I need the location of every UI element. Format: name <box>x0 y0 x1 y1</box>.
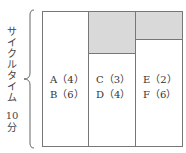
task-label: D（4） <box>96 87 130 102</box>
task-label: C（3） <box>96 72 130 87</box>
label-char: ル <box>6 59 18 70</box>
task-label: F（6） <box>143 87 176 102</box>
cycle-time-value: 10 <box>4 110 20 121</box>
label-char: ム <box>6 92 18 103</box>
label-char: タ <box>6 70 18 81</box>
idle-time-area <box>89 12 135 54</box>
label-char: イ <box>6 37 18 48</box>
station-2: C（3） D（4） <box>88 11 136 147</box>
label-char: イ <box>6 81 18 92</box>
task-label: E（2） <box>143 72 177 87</box>
station-3: E（2） F（6） <box>135 11 183 147</box>
label-char: サ <box>6 26 18 37</box>
task-label: B（6） <box>50 87 84 102</box>
station-1: A（4） B（6） <box>42 11 89 147</box>
cycle-time-label: サ イ ク ル タ イ ム <box>6 26 18 103</box>
idle-time-area <box>136 12 182 40</box>
task-label: A（4） <box>50 72 84 87</box>
cycle-time-unit: 分 <box>4 122 20 133</box>
label-char: ク <box>6 48 18 59</box>
curly-brace-icon <box>20 9 36 149</box>
